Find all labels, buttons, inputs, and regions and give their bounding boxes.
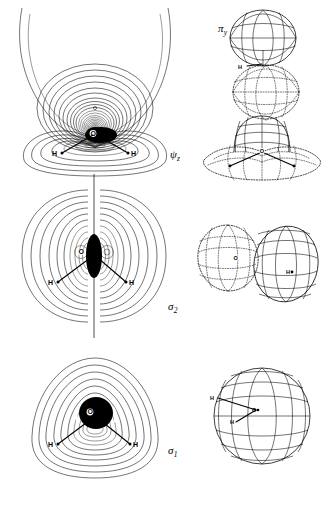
surface-views-sigma-1: O H H [200, 340, 335, 511]
atom-label-hydrogen-left: H [48, 441, 53, 448]
surface-views-sigma-2: H O [200, 172, 335, 340]
contour-plot-psi-z: O H H [0, 0, 200, 172]
orbital-label-pi-y: πy [218, 22, 227, 37]
contour-group-right-lobe [100, 190, 166, 322]
isosurface-sigma-1-positive-lobe [214, 368, 310, 464]
contour-group-left-lobe [22, 190, 88, 322]
atom-label-oxygen: O [79, 248, 85, 255]
atom-label-hydrogen-left: H [230, 419, 234, 425]
atom-label-hydrogen-right: H [133, 441, 138, 448]
orbital-panel-sigma-2: O H H [0, 172, 335, 340]
atom-label-oxygen: O [87, 408, 93, 415]
atom-label-hydrogen-right: H [210, 395, 214, 401]
isosurface-sigma-2-positive-lobe [248, 221, 324, 307]
molecular-orbital-figure: O H H [0, 0, 335, 511]
atom-label-hydrogen-right: H [131, 150, 136, 157]
isosurface-pi-y-positive-lobe [230, 10, 296, 66]
isosurface-sigma-2-negative-lobe [192, 219, 264, 296]
orbital-label-sigma-1: σ1 [168, 444, 178, 459]
atom-label-hydrogen: H [286, 269, 290, 275]
contour-plot-sigma-1: O H H [0, 340, 200, 511]
atom-label-hydrogen-right: H [129, 279, 134, 286]
orbital-panel-sigma-1: O H H [0, 340, 335, 511]
atom-label-oxygen: O [234, 255, 239, 261]
orbital-label-psi-z: ψz [170, 148, 180, 163]
orbital-label-sigma-2: σ2 [168, 300, 178, 315]
atom-label-hydrogen-left: H [52, 150, 57, 157]
isosurface-psi-z-positive-lobe [234, 116, 290, 152]
atom-label-hydrogen: H [238, 64, 242, 70]
atom-label-hydrogen-left: H [48, 279, 53, 286]
orbital-panel-psi-z: O H H [0, 0, 335, 172]
isosurface-pi-y-negative-lobe [233, 65, 299, 120]
atom-label-oxygen: O [260, 148, 265, 154]
